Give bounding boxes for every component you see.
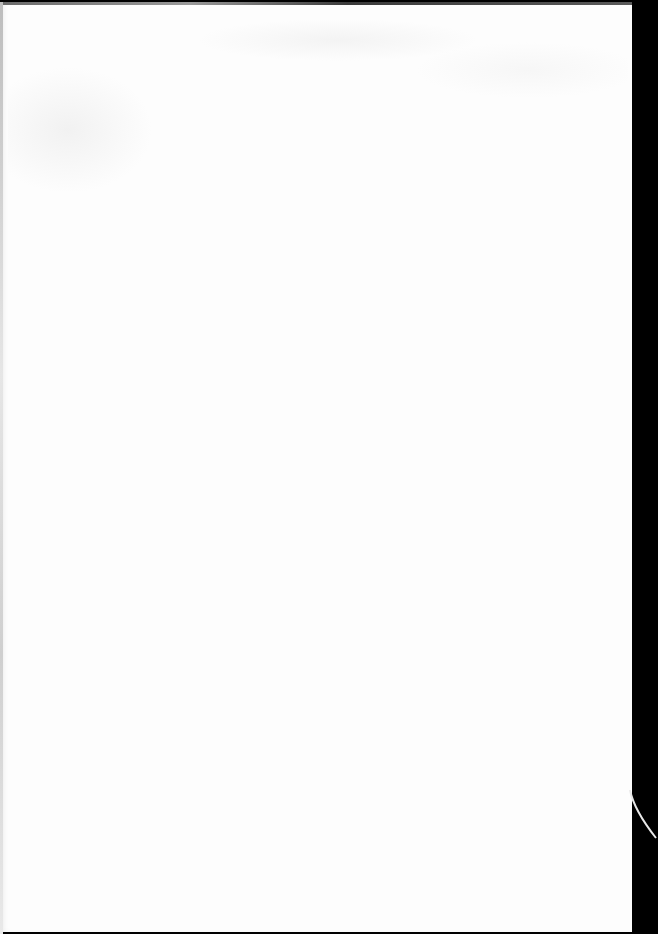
bleed-through-marks bbox=[8, 10, 628, 240]
page-left-edge-shadow bbox=[0, 2, 3, 934]
paper-curl-edge bbox=[628, 790, 658, 840]
blank-page bbox=[0, 2, 632, 932]
page-top-edge-shadow bbox=[0, 2, 632, 5]
